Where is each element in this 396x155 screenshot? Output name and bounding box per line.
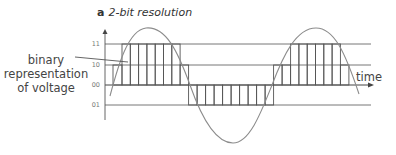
time-arrow-icon xyxy=(368,83,374,88)
level-lines xyxy=(105,44,371,105)
sample-bars xyxy=(113,44,349,105)
annotation-pointer xyxy=(75,57,128,62)
quantization-diagram xyxy=(0,0,396,155)
voltage-arrow-icon xyxy=(103,29,108,34)
